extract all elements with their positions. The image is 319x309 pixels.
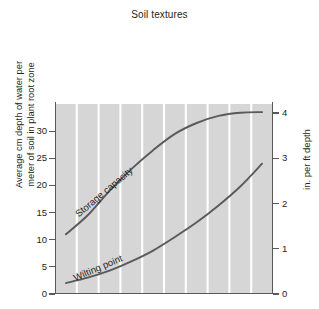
x-axis-category-labels: SandFine sandSandy loamFine sandy loamLo… [0, 0, 319, 104]
left-tick-label: 30 [36, 126, 47, 136]
left-tick-label: 0 [42, 289, 47, 299]
right-tick-label: 1 [282, 244, 287, 254]
left-tick-mark [49, 185, 55, 186]
right-tick-label: 0 [282, 289, 287, 299]
right-tick-mark [273, 203, 279, 204]
left-tick-mark [49, 293, 55, 294]
right-tick-label: 3 [282, 153, 287, 163]
left-tick-label: 15 [36, 208, 47, 218]
right-axis-line [272, 102, 273, 294]
left-axis-title: Average cm depth of water permeter of so… [14, 36, 37, 214]
left-axis-line [55, 102, 56, 294]
left-tick-mark [49, 239, 55, 240]
right-tick-label: 2 [282, 199, 287, 209]
right-tick-mark [273, 112, 279, 113]
left-tick-mark [49, 212, 55, 213]
right-tick-mark [273, 158, 279, 159]
right-tick-mark [273, 248, 279, 249]
left-tick-label: 10 [36, 235, 47, 245]
bottom-axis-line [55, 293, 274, 294]
left-tick-mark [49, 158, 55, 159]
right-axis-title: in. per ft depth [301, 100, 312, 220]
right-tick-mark [273, 293, 279, 294]
left-tick-label: 5 [42, 262, 47, 272]
left-tick-label: 20 [36, 180, 47, 190]
left-tick-mark [49, 131, 55, 132]
right-tick-label: 4 [282, 108, 287, 118]
chart-figure: Soil textures SandFine sandSandy loamFin… [0, 0, 319, 309]
left-tick-mark [49, 266, 55, 267]
left-tick-label: 25 [36, 153, 47, 163]
